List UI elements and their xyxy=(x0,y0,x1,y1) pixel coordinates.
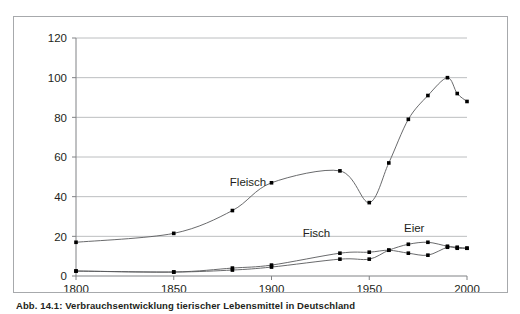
y-axis-tick-label: 60 xyxy=(54,151,67,163)
data-point-marker-eier xyxy=(387,248,391,252)
data-point-marker-fleisch xyxy=(426,94,430,98)
figure-caption: Abb. 14.1: Verbrauchsentwicklung tierisc… xyxy=(16,300,516,311)
data-point-marker-eier xyxy=(338,257,342,261)
data-point-marker-eier xyxy=(231,268,235,272)
data-point-marker-fleisch xyxy=(455,92,459,96)
data-point-marker-fleisch xyxy=(387,161,391,165)
y-axis-tick-label: 80 xyxy=(54,112,67,124)
x-axis-tick-label: 1800 xyxy=(63,283,89,292)
data-point-marker-fisch xyxy=(338,251,342,255)
data-point-marker-fisch xyxy=(367,250,371,254)
y-axis-tick-label: 40 xyxy=(54,191,67,203)
data-point-marker-fleisch xyxy=(74,240,78,244)
y-axis-tick-label: 20 xyxy=(54,231,67,243)
series-label-fisch: Fisch xyxy=(303,227,330,239)
data-point-marker-eier xyxy=(270,265,274,269)
series-label-fleisch: Fleisch xyxy=(230,176,266,188)
data-point-marker-fleisch xyxy=(446,76,450,80)
data-point-marker-fleisch xyxy=(367,201,371,205)
y-axis-tick-label: 120 xyxy=(48,32,67,44)
series-annotations-group: FleischFischEier xyxy=(230,176,425,240)
y-axis-tick-label: 0 xyxy=(61,270,67,282)
data-point-marker-eier xyxy=(446,244,450,248)
data-point-marker-eier xyxy=(74,269,78,273)
series-markers-group xyxy=(74,76,469,274)
data-point-marker-fleisch xyxy=(231,209,235,213)
data-point-marker-fleisch xyxy=(407,118,411,122)
x-axis-tick-label: 1850 xyxy=(161,283,187,292)
series-label-eier: Eier xyxy=(404,222,425,234)
x-axis-tick-label: 2000 xyxy=(454,283,480,292)
line-chart: 020406080100120 18001850190019502000 Fle… xyxy=(14,17,507,292)
data-point-marker-eier xyxy=(426,240,430,244)
y-axis-tick-label: 100 xyxy=(48,72,67,84)
figure-container: 020406080100120 18001850190019502000 Fle… xyxy=(0,0,520,314)
x-axis-tick-label: 1950 xyxy=(356,283,382,292)
data-point-marker-fleisch xyxy=(172,232,176,236)
x-axis-tick-labels: 18001850190019502000 xyxy=(63,283,480,292)
data-point-marker-eier xyxy=(455,245,459,249)
data-point-marker-fleisch xyxy=(270,181,274,185)
chart-frame: 020406080100120 18001850190019502000 Fle… xyxy=(13,16,508,293)
data-point-marker-fleisch xyxy=(465,100,469,104)
gridlines-group xyxy=(76,38,467,236)
y-axis-tick-labels: 020406080100120 xyxy=(48,32,67,282)
data-point-marker-eier xyxy=(465,246,469,250)
data-point-marker-fleisch xyxy=(338,169,342,173)
x-axis-tick-label: 1900 xyxy=(259,283,285,292)
data-point-marker-eier xyxy=(172,270,176,274)
data-point-marker-fisch xyxy=(426,253,430,257)
series-line-fleisch xyxy=(76,78,467,243)
data-point-marker-eier xyxy=(367,257,371,261)
data-point-marker-fisch xyxy=(407,251,411,255)
data-point-marker-eier xyxy=(407,242,411,246)
